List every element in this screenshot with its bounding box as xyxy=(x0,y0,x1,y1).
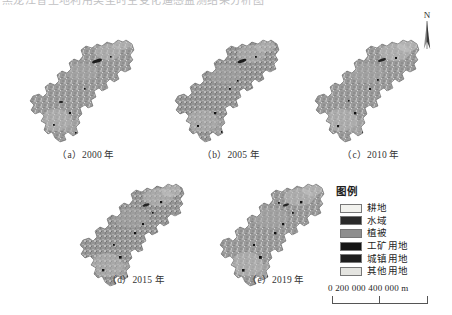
map-caption-2005: （b）2005 年 xyxy=(167,147,295,161)
scale-bar-rule xyxy=(332,303,428,304)
legend-item-water: 水域 xyxy=(340,215,448,228)
legend-item-other: 其他用地 xyxy=(340,265,448,278)
legend-label-urban: 城镇用地 xyxy=(367,254,408,264)
scale-bar-labels: 0 200 000 400 000 m xyxy=(328,283,450,293)
map-raster-2000 xyxy=(22,28,150,146)
legend-swatch-cropland xyxy=(340,204,362,213)
legend-title: 图例 xyxy=(336,183,448,198)
legend-item-cropland: 耕地 xyxy=(340,202,448,215)
map-scale-bar: 0 200 000 400 000 m xyxy=(326,283,450,306)
map-panel-2000 xyxy=(22,28,150,146)
map-panel-2010 xyxy=(307,28,435,146)
map-caption-2019: （e）2019 年 xyxy=(212,272,340,286)
map-caption-2010: （c）2010 年 xyxy=(307,147,435,161)
scale-bar-tick-1 xyxy=(379,296,380,304)
figure-canvas: N xyxy=(0,0,452,315)
scale-bar-tick-0 xyxy=(332,296,333,304)
legend-item-vegetation: 植被 xyxy=(340,227,448,240)
legend-swatch-other xyxy=(340,267,362,276)
legend-item-industrial-mining: 工矿用地 xyxy=(340,240,448,253)
north-arrow-label: N xyxy=(414,10,440,20)
legend-swatch-vegetation xyxy=(340,229,362,238)
map-caption-2015: （d）2015 年 xyxy=(72,272,200,286)
map-panel-2005 xyxy=(167,28,295,146)
map-raster-2010 xyxy=(307,28,435,146)
legend-item-urban: 城镇用地 xyxy=(340,252,448,265)
legend-label-other: 其他用地 xyxy=(367,266,408,276)
legend-swatch-urban xyxy=(340,254,362,263)
scale-bar-tick-2 xyxy=(427,296,428,304)
scale-bar-ruler xyxy=(332,296,428,306)
map-raster-2005 xyxy=(167,28,295,146)
legend-label-water: 水域 xyxy=(367,216,388,226)
map-caption-2000: （a）2000 年 xyxy=(22,147,150,161)
map-legend: 图例 耕地 水域 植被 工矿用地 城镇用地 其他用地 xyxy=(330,183,448,278)
legend-swatch-water xyxy=(340,216,362,225)
legend-label-cropland: 耕地 xyxy=(367,203,388,213)
legend-label-industrial-mining: 工矿用地 xyxy=(367,241,408,251)
legend-label-vegetation: 植被 xyxy=(367,228,388,238)
legend-swatch-industrial-mining xyxy=(340,242,362,251)
